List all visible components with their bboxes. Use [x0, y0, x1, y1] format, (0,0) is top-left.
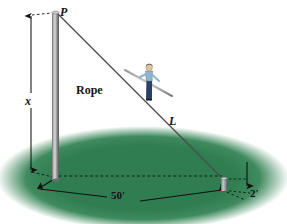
geometry-figure: P x L Rope 50' 2'	[0, 0, 287, 224]
figure-canvas	[0, 0, 287, 224]
pole	[52, 11, 59, 182]
tightrope-walker	[125, 64, 172, 100]
label-point-p: P	[60, 6, 67, 18]
stake	[221, 177, 227, 191]
label-pole-height: x	[25, 95, 31, 107]
walker-legs	[148, 79, 151, 99]
label-rope: Rope	[76, 84, 103, 96]
label-stake-height: 2'	[250, 188, 259, 199]
label-rope-length: L	[169, 115, 176, 127]
label-ground-distance: 50'	[111, 190, 125, 201]
walker-torso	[146, 71, 153, 81]
